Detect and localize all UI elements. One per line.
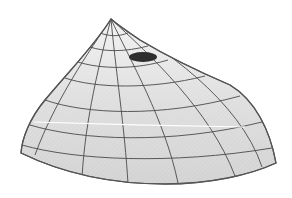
- dark-spot: [129, 52, 157, 62]
- cone-surface-diagram: [0, 0, 292, 198]
- figure-canvas: [0, 0, 292, 198]
